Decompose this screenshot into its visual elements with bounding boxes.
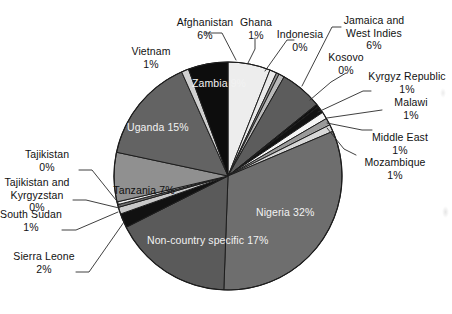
inner-label-noncountry-line1: Non-country <box>147 234 205 246</box>
callout-sierra-leone-pct: 2% <box>12 263 76 276</box>
scan-artifact-secondary <box>440 88 446 98</box>
scan-artifact <box>442 206 449 218</box>
inner-label-nigeria-pct: 32% <box>293 206 314 218</box>
leader-south-sudan <box>62 212 118 230</box>
inner-label-zambia-name: Zambia <box>192 77 228 89</box>
inner-label-noncountry-pct: 17% <box>247 234 268 246</box>
leader-ghana <box>248 38 255 63</box>
callout-vietnam-name: Vietnam <box>131 45 170 57</box>
callout-malawi: Malawi 1% <box>383 96 439 121</box>
callout-middle-east-name: Middle East <box>372 131 428 143</box>
callout-sierra-leone: Sierra Leone 2% <box>12 250 76 275</box>
callout-mozambique-name: Mozambique <box>364 156 425 168</box>
inner-label-nigeria-name: Nigeria <box>256 206 290 218</box>
callout-south-sudan: South Sudan 1% <box>0 208 62 233</box>
callout-ghana-name: Ghana <box>240 16 272 28</box>
inner-label-zambia: Zambia 9% <box>188 77 250 90</box>
callout-malawi-name: Malawi <box>394 96 427 108</box>
callout-middle-east: Middle East 1% <box>362 131 438 156</box>
callout-south-sudan-pct: 1% <box>0 221 62 234</box>
pie-svg <box>113 61 343 291</box>
pie-chart-figure: Afghanistan 6% Ghana 1% Indonesia 0% Jam… <box>0 0 452 314</box>
callout-tajikistan: Tajikistan 0% <box>16 148 78 173</box>
callout-malawi-pct: 1% <box>383 109 439 122</box>
callout-vietnam-pct: 1% <box>120 58 182 71</box>
inner-label-zambia-pct: 9% <box>231 77 246 89</box>
callout-middle-east-pct: 1% <box>362 144 438 157</box>
inner-label-tanzania-name: Tanzania <box>113 184 156 196</box>
callout-tajikistan-kyrgyzstan-line2: Kyrgyzstan <box>2 189 72 202</box>
pie-chart <box>113 61 343 291</box>
inner-label-tanzania-pct: 7% <box>159 184 174 196</box>
callout-afghanistan-name: Afghanistan <box>177 16 234 28</box>
callout-jamaica-line1: Jamaica and <box>344 14 405 26</box>
inner-label-nigeria: Nigeria 32% <box>256 206 314 219</box>
callout-kyrgyz-republic: Kyrgyz Republic 1% <box>363 70 451 95</box>
inner-label-uganda-name: Uganda <box>127 121 164 133</box>
callout-mozambique-pct: 1% <box>355 169 435 182</box>
callout-kyrgyz-pct: 1% <box>363 83 451 96</box>
callout-jamaica-and-west-indies: Jamaica and West Indies 6% <box>330 14 418 52</box>
callout-sierra-leone-name: Sierra Leone <box>13 250 74 262</box>
callout-vietnam: Vietnam 1% <box>120 45 182 70</box>
inner-label-non-country-specific: Non-country specific 17% <box>147 234 231 247</box>
callout-jamaica-line2: West Indies <box>330 27 418 40</box>
callout-kyrgyz-name: Kyrgyz Republic <box>368 70 445 82</box>
callout-jamaica-pct: 6% <box>330 39 418 52</box>
inner-label-tanzania: Tanzania 7% <box>113 184 175 197</box>
callout-tajikistan-kyrgyzstan-line1: Tajikistan and <box>4 176 69 188</box>
callout-kosovo-name: Kosovo <box>328 51 364 63</box>
callout-mozambique: Mozambique 1% <box>355 156 435 181</box>
callout-south-sudan-name: South Sudan <box>0 208 62 220</box>
callout-indonesia-name: Indonesia <box>277 28 323 40</box>
callout-indonesia: Indonesia 0% <box>268 28 332 53</box>
inner-label-uganda: Uganda 15% <box>127 121 187 134</box>
inner-label-uganda-pct: 15% <box>167 121 188 133</box>
callout-tajikistan-name: Tajikistan <box>25 148 69 160</box>
inner-label-noncountry-line2: specific <box>208 234 244 246</box>
callout-tajikistan-pct: 0% <box>16 161 78 174</box>
